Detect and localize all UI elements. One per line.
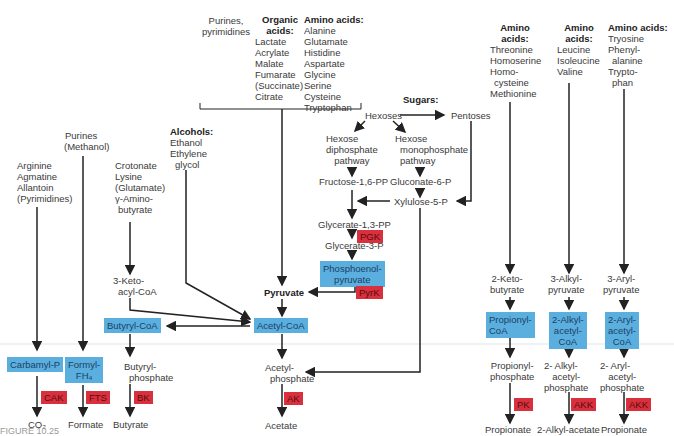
butyryl-phosphate: Butyryl- phosphate bbox=[124, 361, 173, 383]
label: Phosphoenol- bbox=[323, 263, 382, 274]
2-alkyl-acetyl-coa: 2-Alkyl- acetyl- CoA bbox=[549, 312, 587, 349]
label: Purines bbox=[64, 130, 109, 141]
label: CoA bbox=[608, 336, 636, 347]
label: 3-Keto- bbox=[113, 275, 157, 286]
label: Citrate bbox=[255, 91, 305, 102]
3-keto-acyl-coa: 3-Keto- acyl-CoA bbox=[113, 275, 157, 297]
2-keto-butyrate: 2-Keto- butyrate bbox=[490, 273, 524, 295]
label: Homo- bbox=[490, 66, 541, 77]
label: CoA bbox=[489, 325, 532, 336]
label: alanine bbox=[608, 55, 668, 66]
label: Histidine bbox=[304, 47, 364, 58]
label: Purines, bbox=[202, 15, 250, 26]
label: Propionyl- bbox=[490, 360, 534, 371]
3-alkyl-pyruvate: 3-Alkyl- pyruvate bbox=[548, 273, 584, 295]
label: Propionyl- bbox=[489, 314, 532, 325]
label: butyrate bbox=[490, 284, 524, 295]
enzyme-pyrk: PyrK bbox=[356, 286, 383, 299]
group-title: Amino acids: bbox=[304, 14, 364, 25]
label: Formyl- bbox=[68, 359, 100, 370]
group-title: Amino acids: bbox=[490, 22, 540, 44]
enzyme-akk-1: AKK bbox=[571, 398, 596, 411]
label: Agmatine bbox=[17, 171, 72, 182]
propionyl-coa: Propionyl- CoA bbox=[486, 312, 535, 338]
pentoses: Pentoses bbox=[451, 110, 491, 121]
2-aryl-acetyl-coa: 2-Aryl- acetyl- CoA bbox=[605, 312, 639, 349]
label: phosphate bbox=[490, 371, 534, 382]
label: pyruvate bbox=[323, 274, 382, 285]
label: Hexose bbox=[395, 133, 468, 144]
label: Lactate bbox=[255, 36, 305, 47]
label: phosphate bbox=[265, 373, 314, 384]
hexose-monophosphate-pathway: Hexose monophosphate pathway bbox=[395, 133, 468, 166]
hexose-diphosphate-pathway: Hexose diphosphate pathway bbox=[326, 133, 378, 166]
label: Glutamate bbox=[304, 36, 364, 47]
crotonate-group: Crotonate Lysine (Glutamate) γ-Amino- bu… bbox=[115, 160, 165, 215]
label: Valine bbox=[557, 66, 601, 77]
amino-acids-group-4: Amino acids: Tryosine Phenyl- alanine Tr… bbox=[608, 22, 668, 88]
label: γ-Amino- bbox=[115, 193, 165, 204]
label: Ethanol bbox=[170, 137, 213, 148]
label: 3-Aryl- bbox=[603, 273, 639, 284]
sugars-title: Sugars: bbox=[403, 94, 438, 105]
label: 2-Alkyl- bbox=[552, 314, 584, 325]
label: Butyryl- bbox=[124, 361, 173, 372]
acetyl-phosphate: Acetyl- phosphate bbox=[265, 362, 314, 384]
label: phosphate bbox=[124, 372, 173, 383]
label: Isoleucine bbox=[557, 55, 601, 66]
label: glycol bbox=[170, 159, 213, 170]
label: pathway bbox=[326, 155, 378, 166]
hexoses: Hexoses bbox=[365, 110, 402, 121]
label: acetyl- bbox=[608, 325, 636, 336]
label: Glycine bbox=[304, 69, 364, 80]
group-title: Alcohols: bbox=[170, 126, 213, 137]
label: phosphate bbox=[544, 382, 588, 393]
purines-methanol-group: Purines (Methanol) bbox=[64, 130, 109, 152]
carbamyl-p: Carbamyl-P bbox=[7, 357, 63, 372]
label: Ethylene bbox=[170, 148, 213, 159]
label: Alanine bbox=[304, 25, 364, 36]
label: acetyl- bbox=[600, 371, 644, 382]
butyryl-coa: Butyryl-CoA bbox=[104, 318, 161, 333]
3-aryl-pyruvate: 3-Aryl- pyruvate bbox=[603, 273, 639, 295]
pyruvate: Pyruvate bbox=[264, 287, 304, 298]
label: 2- Alkyl- bbox=[544, 360, 588, 371]
alcohols-group: Alcohols: Ethanol Ethylene glycol bbox=[170, 126, 213, 170]
label: phan bbox=[608, 77, 668, 88]
label: acyl-CoA bbox=[113, 286, 157, 297]
gluconate-6-p: Gluconate-6-P bbox=[390, 176, 451, 187]
label: Threonine bbox=[490, 44, 541, 55]
enzyme-akk-2: AKK bbox=[626, 398, 651, 411]
amino-acids-group-1: Amino acids: Alanine Glutamate Histidine… bbox=[304, 14, 364, 113]
label: pyruvate bbox=[603, 284, 639, 295]
label: (Glutamate) bbox=[115, 182, 165, 193]
xylulose-5-p: Xylulose-5-P bbox=[394, 196, 448, 207]
label: 2- Aryl- bbox=[600, 360, 644, 371]
product-2-alkyl-acetate: 2-Alkyl-acetate bbox=[537, 424, 600, 435]
label: Trypto- bbox=[608, 66, 668, 77]
label: 2-Keto- bbox=[490, 273, 524, 284]
group-title: Organic acids: bbox=[255, 14, 305, 36]
label: Allantoin bbox=[17, 182, 72, 193]
label: Aspartate bbox=[304, 58, 364, 69]
label: Tryptophan bbox=[304, 102, 364, 113]
glycerate-3-p: Glycerate-3-P bbox=[325, 240, 384, 251]
enzyme-fts: FTS bbox=[86, 391, 110, 404]
phosphoenolpyruvate: Phosphoenol- pyruvate bbox=[320, 261, 385, 287]
group-title: Amino acids: bbox=[557, 22, 601, 44]
label: Serine bbox=[304, 80, 364, 91]
label: Acetyl- bbox=[265, 362, 314, 373]
label: pyrimidines bbox=[202, 26, 250, 37]
arginine-group: Arginine Agmatine Allantoin (Pyrimidines… bbox=[17, 160, 72, 204]
label: Phenyl- bbox=[608, 44, 668, 55]
amino-acids-group-3: Amino acids: Leucine Isoleucine Valine bbox=[557, 22, 601, 77]
label: Tryosine bbox=[608, 33, 668, 44]
product-propionate-2: Propionate bbox=[601, 424, 647, 435]
label: Leucine bbox=[557, 44, 601, 55]
label: Malate bbox=[255, 58, 305, 69]
label: 3-Alkyl- bbox=[548, 273, 584, 284]
product-propionate-1: Propionate bbox=[485, 424, 531, 435]
acetyl-coa: Acetyl-CoA bbox=[254, 318, 308, 333]
label: pathway bbox=[395, 155, 468, 166]
label: acetyl- bbox=[552, 325, 584, 336]
